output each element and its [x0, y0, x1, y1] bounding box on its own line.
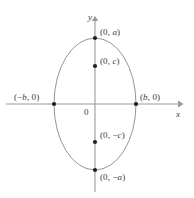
label-upper-focus-suffix: ) — [117, 56, 120, 66]
x-axis-arrow-icon — [178, 101, 184, 108]
label-bottom-vertex-prefix: (0, − — [100, 172, 118, 182]
label-upper-focus-prefix: (0, — [100, 56, 112, 66]
label-lower-focus-suffix: ) — [122, 130, 125, 140]
label-lower-focus: (0, −c) — [100, 131, 125, 140]
y-axis-label: y — [88, 13, 92, 22]
label-bottom-vertex-suffix: ) — [122, 172, 125, 182]
label-top-vertex-prefix: (0, — [100, 27, 112, 37]
point-bottom-vertex — [93, 168, 97, 172]
point-left-vertex — [52, 102, 56, 106]
label-right-vertex: (b, 0) — [140, 93, 160, 102]
y-axis-arrow-icon — [92, 16, 99, 21]
label-left-vertex-suffix: , 0) — [27, 92, 39, 102]
label-upper-focus: (0, c) — [100, 57, 120, 66]
x-axis-label: x — [176, 110, 180, 119]
origin-label: 0 — [84, 108, 89, 117]
point-lower-focus — [93, 140, 97, 144]
point-top-vertex — [93, 36, 97, 40]
label-right-vertex-suffix: , 0) — [148, 92, 160, 102]
label-top-vertex-suffix: ) — [117, 27, 120, 37]
point-right-vertex — [134, 102, 138, 106]
label-bottom-vertex: (0, −a) — [100, 173, 125, 182]
label-left-vertex: (−b, 0) — [14, 93, 39, 102]
ellipse-figure: (0, a) (0, c) (−b, 0) (b, 0) (0, −c) (0,… — [0, 0, 194, 198]
point-upper-focus — [93, 64, 97, 68]
label-top-vertex: (0, a) — [100, 28, 120, 37]
label-lower-focus-prefix: (0, − — [100, 130, 118, 140]
